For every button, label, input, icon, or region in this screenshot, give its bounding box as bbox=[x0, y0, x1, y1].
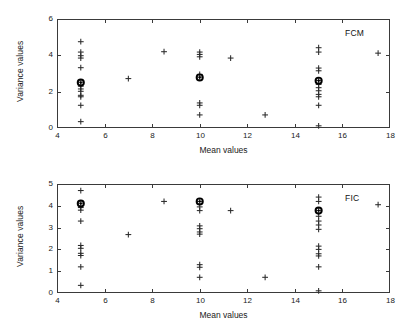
y-tick-label: 0 bbox=[33, 288, 53, 297]
x-tick-label: 10 bbox=[189, 131, 213, 140]
scatter-marker-plus bbox=[316, 49, 322, 55]
x-tick-label: 16 bbox=[331, 131, 355, 140]
y-tick-label: 6 bbox=[33, 14, 53, 23]
cluster-center-marker bbox=[316, 207, 322, 213]
x-tick-label: 4 bbox=[46, 131, 70, 140]
scatter-marker-plus bbox=[78, 119, 84, 125]
scatter-marker-plus bbox=[78, 65, 84, 71]
x-tick-label: 6 bbox=[94, 296, 118, 305]
scatter-marker-plus bbox=[78, 39, 84, 45]
series-label-fcm: FCM bbox=[345, 28, 364, 38]
x-tick-label: 8 bbox=[141, 131, 165, 140]
scatter-marker-plus bbox=[197, 208, 203, 214]
x-tick-label: 16 bbox=[331, 296, 355, 305]
y-axis-label-fcm: Variance values bbox=[15, 42, 25, 102]
scatter-marker-plus bbox=[316, 123, 322, 129]
x-tick-label: 14 bbox=[284, 131, 308, 140]
cluster-center-marker bbox=[197, 198, 203, 204]
x-tick-label: 10 bbox=[189, 296, 213, 305]
scatter-marker-plus bbox=[375, 50, 381, 56]
x-axis-label-fic: Mean values bbox=[47, 310, 400, 320]
scatter-marker-plus bbox=[375, 202, 381, 208]
x-tick-label: 4 bbox=[46, 296, 70, 305]
scatter-marker-plus bbox=[197, 274, 203, 280]
scatter-marker-plus bbox=[78, 282, 84, 288]
scatter-marker-plus bbox=[197, 112, 203, 118]
y-tick-label: 4 bbox=[33, 50, 53, 59]
scatter-marker-plus bbox=[78, 188, 84, 194]
scatter-marker-plus bbox=[316, 68, 322, 74]
scatter-marker-plus bbox=[125, 232, 131, 238]
scatter-marker-plus bbox=[78, 264, 84, 270]
x-tick-label: 18 bbox=[379, 131, 403, 140]
cluster-center-marker bbox=[197, 74, 203, 80]
x-tick-label: 18 bbox=[379, 296, 403, 305]
scatter-marker-plus bbox=[316, 288, 322, 294]
x-tick-label: 8 bbox=[141, 296, 165, 305]
y-tick-label: 0 bbox=[33, 123, 53, 132]
y-tick-label: 2 bbox=[33, 244, 53, 253]
y-tick-label: 5 bbox=[33, 179, 53, 188]
scatter-marker-plus bbox=[161, 199, 167, 205]
scatter-layer-fcm bbox=[0, 0, 412, 165]
y-tick-label: 1 bbox=[33, 266, 53, 275]
x-tick-label: 12 bbox=[236, 131, 260, 140]
cluster-center-marker bbox=[78, 201, 84, 207]
scatter-marker-plus bbox=[228, 55, 234, 61]
scatter-marker-plus bbox=[78, 245, 84, 251]
scatter-marker-plus bbox=[316, 199, 322, 205]
scatter-points-group bbox=[78, 188, 381, 294]
scatter-marker-plus bbox=[125, 76, 131, 82]
scatter-marker-plus bbox=[78, 218, 84, 224]
y-tick-label: 4 bbox=[33, 201, 53, 210]
chart-panel-fcm: Variance values Mean values FCM 46810121… bbox=[0, 0, 412, 165]
scatter-marker-plus bbox=[78, 207, 84, 213]
x-tick-label: 6 bbox=[94, 131, 118, 140]
series-label-fic: FIC bbox=[345, 193, 359, 203]
y-axis-label-fic: Variance values bbox=[15, 207, 25, 267]
scatter-marker-plus bbox=[78, 94, 84, 100]
scatter-marker-plus bbox=[316, 264, 322, 270]
scatter-marker-plus bbox=[78, 102, 84, 108]
scatter-marker-plus bbox=[228, 208, 234, 214]
scatter-marker-plus bbox=[197, 264, 203, 270]
scatter-marker-plus bbox=[262, 274, 268, 280]
chart-panel-fic: Variance values Mean values FIC 46810121… bbox=[0, 165, 412, 329]
x-tick-label: 14 bbox=[284, 296, 308, 305]
scatter-marker-plus bbox=[161, 49, 167, 55]
y-tick-label: 3 bbox=[33, 223, 53, 232]
scatter-points-group bbox=[78, 39, 381, 129]
x-axis-label-fcm: Mean values bbox=[47, 145, 400, 155]
x-tick-label: 12 bbox=[236, 296, 260, 305]
y-tick-label: 2 bbox=[33, 87, 53, 96]
scatter-marker-plus bbox=[262, 112, 268, 118]
scatter-marker-plus bbox=[316, 226, 322, 232]
cluster-center-marker bbox=[316, 78, 322, 84]
cluster-center-marker bbox=[78, 79, 84, 85]
scatter-marker-plus bbox=[316, 102, 322, 108]
